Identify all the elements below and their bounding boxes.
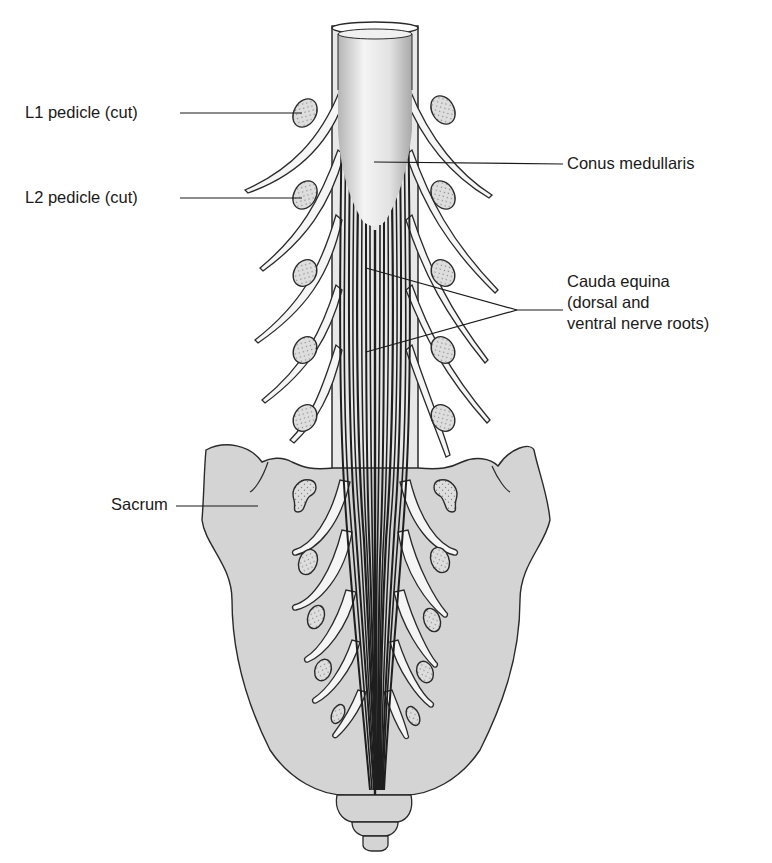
label-l2-pedicle: L2 pedicle (cut) <box>25 187 138 208</box>
cauda-equina-diagram <box>0 0 772 863</box>
label-conus-medullaris: Conus medullaris <box>567 153 694 174</box>
label-cauda-equina: Cauda equina (dorsal and ventral nerve r… <box>567 271 767 334</box>
label-l1-pedicle: L1 pedicle (cut) <box>25 102 138 123</box>
label-sacrum: Sacrum <box>111 494 168 515</box>
label-cauda-equina-line3: ventral nerve roots) <box>567 313 767 334</box>
label-cauda-equina-line2: (dorsal and <box>567 292 767 313</box>
label-cauda-equina-line1: Cauda equina <box>567 271 767 292</box>
